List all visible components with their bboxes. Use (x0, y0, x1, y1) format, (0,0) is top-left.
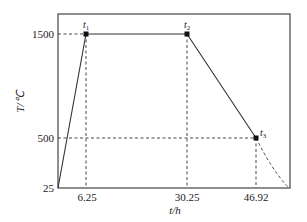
x-axis-label: t/h (169, 204, 181, 216)
x-tick-46.92: 46.92 (244, 191, 269, 203)
x-tick-6.25: 6.25 (77, 191, 97, 203)
y-tick-500: 500 (38, 132, 55, 144)
marker-t2 (185, 32, 190, 37)
y-tick-1500: 1500 (32, 28, 55, 40)
point-label-t2: t2 (184, 19, 191, 32)
cooling-tail-curve (256, 138, 288, 187)
marker-t1 (84, 32, 89, 37)
point-label-t3: t3 (260, 127, 267, 140)
x-tick-30.25: 30.25 (175, 191, 200, 203)
temperature-profile-line (58, 34, 256, 188)
reference-lines (58, 34, 288, 188)
chart: t1 t2 t3 1500 500 25 6.25 30.25 46.92 t/… (0, 0, 307, 222)
point-label-t1: t1 (83, 19, 90, 32)
marker-t3 (254, 136, 259, 141)
y-axis-label: T/℃ (14, 89, 26, 112)
plot-frame (58, 14, 290, 188)
y-tick-25: 25 (43, 182, 55, 194)
